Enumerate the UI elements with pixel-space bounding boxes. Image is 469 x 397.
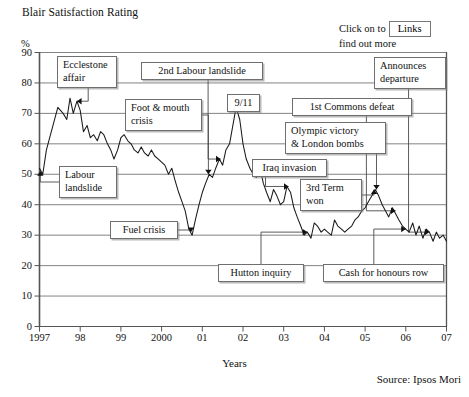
callout-iraq-invasion[interactable]: Iraq invasion: [252, 159, 327, 177]
callout-second-labour-landslide[interactable]: 2nd Labour landslide: [141, 62, 263, 80]
callout-nine-eleven[interactable]: 9/11: [227, 94, 260, 112]
y-axis-tick-label: 0: [6, 322, 32, 333]
callout-announces-departure[interactable]: Announces departure: [374, 57, 446, 89]
callout-third-term-won[interactable]: 3rd Term won: [300, 179, 362, 211]
callout-first-commons-defeat[interactable]: 1st Commons defeat: [292, 98, 412, 116]
x-axis-tick-label: 04: [302, 332, 346, 343]
x-axis-tick-label: 01: [180, 332, 224, 343]
chart-page: Blair Satisfaction Rating % Click on to …: [0, 0, 469, 397]
callout-cash-for-honours-row[interactable]: Cash for honours row: [323, 264, 444, 282]
callout-labour-landslide[interactable]: Labour landslide: [59, 166, 117, 198]
callout-fuel-crisis[interactable]: Fuel crisis: [110, 221, 178, 239]
x-axis-title: Years: [0, 357, 469, 369]
x-axis-tick-label: 2000: [140, 332, 184, 343]
x-axis-tick-label: 98: [58, 332, 102, 343]
x-axis-tick-label: 05: [343, 332, 387, 343]
x-axis-tick-label: 07: [425, 332, 469, 343]
callout-foot-and-mouth-crisis[interactable]: Foot & mouth crisis: [125, 99, 202, 131]
y-axis-tick-label: 10: [6, 291, 32, 302]
y-axis-tick-label: 50: [6, 169, 32, 180]
x-axis-tick-label: 99: [99, 332, 143, 343]
x-axis-tick-label: 03: [262, 332, 306, 343]
y-axis-tick-label: 80: [6, 78, 32, 89]
callout-ecclestone-affair[interactable]: Ecclestone affair: [57, 56, 117, 88]
callout-olympic-victory-london-bombs[interactable]: Olympic victory & London bombs: [285, 122, 386, 154]
y-axis-tick-label: 70: [6, 108, 32, 119]
callout-hutton-inquiry[interactable]: Hutton inquiry: [218, 264, 304, 282]
x-axis-tick-label: 06: [384, 332, 428, 343]
y-axis-tick-label: 60: [6, 139, 32, 150]
y-axis-tick-label: 90: [6, 48, 32, 59]
y-axis-tick-label: 40: [6, 200, 32, 211]
source-label: Source: Ipsos Mori: [377, 373, 461, 385]
x-axis-tick-marks: [40, 327, 447, 332]
x-axis-tick-label: 02: [221, 332, 265, 343]
y-axis-tick-label: 20: [6, 261, 32, 272]
y-axis-tick-label: 30: [6, 230, 32, 241]
x-axis-tick-label: 1997: [18, 332, 62, 343]
